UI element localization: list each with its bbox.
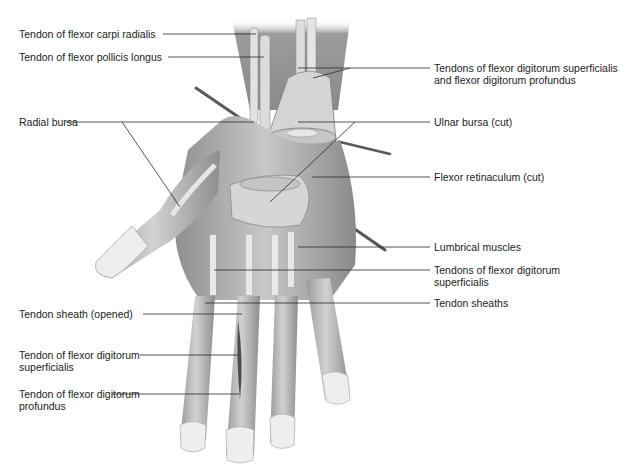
tendon-flexor-carpi-radialis: [250, 28, 258, 123]
label-tendon-flexor-carpi-radialis: Tendon of flexor carpi radialis: [19, 28, 156, 40]
label-tendon-flexor-digitorum-superficialis: Tendon of flexor digitorum superficialis: [19, 349, 140, 373]
label-tendon-sheath-opened: Tendon sheath (opened): [19, 308, 133, 320]
label-tendons-fds-and-fdp: Tendons of flexor digitorum superficiali…: [434, 62, 618, 86]
label-radial-bursa: Radial bursa: [19, 116, 78, 128]
label-tendon-flexor-digitorum-profundus: Tendon of flexor digitorum profundus: [19, 388, 140, 412]
label-tendon-sheaths: Tendon sheaths: [434, 297, 508, 309]
tendon-flexor-pollicis-longus: [260, 35, 270, 130]
label-flexor-retinaculum-cut: Flexor retinaculum (cut): [434, 171, 544, 183]
label-tendons-flexor-digitorum-superficialis: Tendons of flexor digitorum superficiali…: [434, 264, 560, 288]
label-tendon-flexor-pollicis-longus: Tendon of flexor pollicis longus: [19, 51, 162, 63]
label-lumbrical-muscles: Lumbrical muscles: [434, 241, 521, 253]
label-ulnar-bursa-cut: Ulnar bursa (cut): [434, 116, 512, 128]
